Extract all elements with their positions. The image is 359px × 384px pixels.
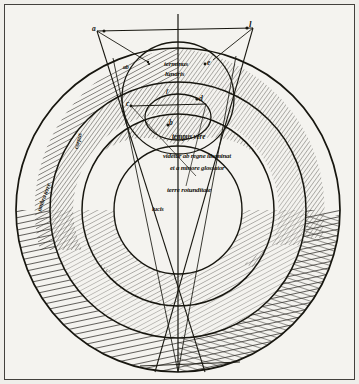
point-dot-l bbox=[245, 26, 248, 29]
manuscript-diagram bbox=[0, 0, 359, 384]
point-dot-d bbox=[195, 97, 198, 100]
point-dot-a bbox=[103, 30, 106, 33]
point-dot-c bbox=[130, 105, 133, 108]
point-dot-b bbox=[167, 124, 170, 127]
diagram-page: a l ab e c d b f terminus lunaris tempus… bbox=[0, 0, 359, 384]
point-dot-ab bbox=[147, 61, 149, 63]
point-dot-e bbox=[204, 63, 207, 66]
point-dot-aux bbox=[148, 63, 150, 65]
